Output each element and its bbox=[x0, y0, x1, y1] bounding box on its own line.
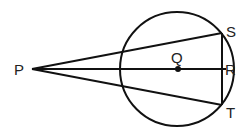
geometry-diagram: P Q R S T bbox=[0, 0, 250, 133]
label-s: S bbox=[226, 23, 236, 40]
segment-ps bbox=[32, 33, 222, 69]
center-point-q bbox=[175, 66, 181, 72]
label-p: P bbox=[14, 61, 24, 78]
segment-pt bbox=[32, 69, 222, 105]
label-t: T bbox=[226, 104, 235, 121]
label-r: R bbox=[225, 61, 236, 78]
label-q: Q bbox=[171, 49, 183, 66]
